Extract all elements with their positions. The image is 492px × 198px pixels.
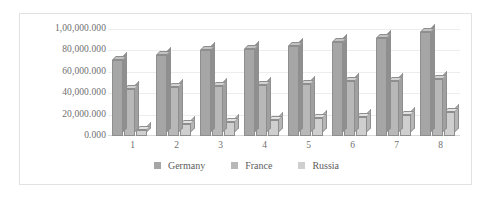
bar-germany [332, 42, 343, 136]
bar-group [108, 29, 152, 136]
bar-side [167, 47, 171, 132]
bar-germany [376, 38, 387, 136]
bar-group [152, 29, 196, 136]
y-axis-tick-label: 60,000.000 [28, 66, 106, 76]
bar-side [223, 78, 227, 132]
x-axis-tick-label: 1 [108, 140, 152, 156]
legend-label: Russia [312, 160, 339, 171]
bar-side [135, 81, 139, 132]
y-axis-tick-label: 80,000.000 [28, 44, 106, 54]
legend-swatch-icon [298, 162, 305, 169]
bar-side [211, 42, 215, 132]
x-axis-tick-label: 5 [284, 140, 328, 156]
bar-side [431, 24, 435, 132]
bar-face [136, 130, 147, 136]
bar-face [332, 42, 343, 136]
legend-item-france[interactable]: France [231, 160, 272, 171]
bar-germany [244, 49, 255, 136]
legend-swatch-icon [154, 162, 161, 169]
x-axis-tick-label: 4 [240, 140, 284, 156]
legend-label: Germany [168, 160, 205, 171]
y-axis-tick-label: 1,00,000.000 [28, 23, 106, 33]
bar-side [311, 76, 315, 132]
bar-germany [156, 55, 167, 136]
bar-side [235, 114, 239, 132]
bar-side [123, 52, 127, 132]
plot-area [108, 29, 460, 136]
bar-side [443, 71, 447, 132]
bar-side [299, 38, 303, 132]
bar-russia [136, 130, 147, 136]
bar-group [240, 29, 284, 136]
chart-legend: GermanyFranceRussia [20, 160, 473, 171]
x-axis-tick-label: 7 [372, 140, 416, 156]
bar-face [200, 50, 211, 136]
bar-face [376, 38, 387, 136]
bar-group [284, 29, 328, 136]
chart-card: 0.00020,000.00040,000.00060,000.00080,00… [19, 13, 472, 185]
bar-group [328, 29, 372, 136]
bar-side [355, 73, 359, 132]
chart-plot-wrapper: 0.00020,000.00040,000.00060,000.00080,00… [20, 14, 473, 186]
bar-groups [108, 29, 460, 136]
bar-side [399, 73, 403, 132]
bar-face [288, 46, 299, 136]
legend-swatch-icon [231, 162, 238, 169]
bar-side [179, 79, 183, 132]
y-axis-tick-label: 20,000.000 [28, 109, 106, 119]
bar-side [255, 41, 259, 132]
bar-group [416, 29, 460, 136]
x-axis-tick-label: 6 [328, 140, 372, 156]
bar-germany [112, 60, 123, 136]
legend-item-russia[interactable]: Russia [298, 160, 339, 171]
bar-face [420, 32, 431, 136]
bar-side [279, 112, 283, 132]
bar-group [372, 29, 416, 136]
x-axis-tick-label: 3 [196, 140, 240, 156]
bar-side [267, 77, 271, 132]
bar-side [191, 116, 195, 132]
bar-germany [200, 50, 211, 136]
bar-side [343, 34, 347, 132]
bar-side [387, 30, 391, 132]
bar-germany [288, 46, 299, 136]
y-axis-tick-label: 40,000.000 [28, 87, 106, 97]
bar-germany [420, 32, 431, 136]
bar-face [244, 49, 255, 136]
legend-item-germany[interactable]: Germany [154, 160, 205, 171]
bar-face [156, 55, 167, 136]
bar-face [112, 60, 123, 136]
y-axis-tick-label: 0.000 [28, 130, 106, 140]
x-axis: 12345678 [108, 140, 460, 156]
legend-label: France [245, 160, 272, 171]
x-axis-tick-label: 2 [152, 140, 196, 156]
bar-group [196, 29, 240, 136]
x-axis-tick-label: 8 [416, 140, 460, 156]
